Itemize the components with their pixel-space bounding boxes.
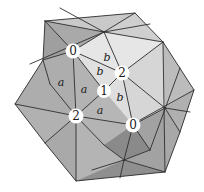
vertex-label-1-center: 1 — [97, 84, 111, 98]
face-label-b: b — [103, 51, 110, 64]
face-label-a: a — [97, 104, 104, 117]
vertex-label-2-left: 2 — [69, 109, 84, 124]
face-label-b: b — [96, 65, 103, 78]
face-label-a: a — [58, 76, 65, 89]
vertex-label-text: 0 — [69, 44, 77, 58]
vertex-label-text: 1 — [100, 84, 108, 98]
face-label-a: a — [81, 83, 88, 96]
vertex-label-text: 0 — [129, 118, 137, 132]
vertex-label-0-bottom: 0 — [126, 118, 141, 133]
polyhedron-svg: 0 2 1 2 0 a a a b b — [0, 0, 204, 192]
polyhedron-figure: 0 2 1 2 0 a a a b b — [0, 0, 204, 192]
vertex-label-2-right: 2 — [115, 66, 130, 81]
vertex-label-text: 2 — [118, 66, 126, 80]
vertex-label-text: 2 — [72, 109, 80, 123]
vertex-label-0-top: 0 — [66, 44, 81, 59]
face-label-b: b — [116, 91, 123, 104]
